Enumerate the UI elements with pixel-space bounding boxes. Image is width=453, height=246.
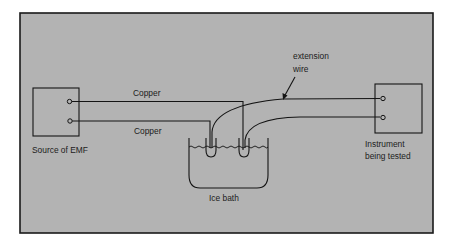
source-terminal-top xyxy=(67,99,71,103)
instrument-terminal-bottom xyxy=(381,115,385,119)
extension-label-line2: wire xyxy=(292,64,309,74)
extension-label-line1: extension xyxy=(293,51,329,61)
instrument-label-line2: being tested xyxy=(365,151,411,161)
source-label: Source of EMF xyxy=(32,145,88,155)
thermocouple-diagram: Source of EMF Copper Copper Ice bath ext… xyxy=(0,0,453,246)
copper-label-top: Copper xyxy=(133,88,161,98)
copper-label-bottom: Copper xyxy=(134,126,162,136)
source-terminal-bottom xyxy=(68,119,72,123)
instrument-label-line1: Instrument xyxy=(365,139,405,149)
ice-bath-label: Ice bath xyxy=(209,193,239,203)
instrument-terminal-top xyxy=(381,96,385,100)
